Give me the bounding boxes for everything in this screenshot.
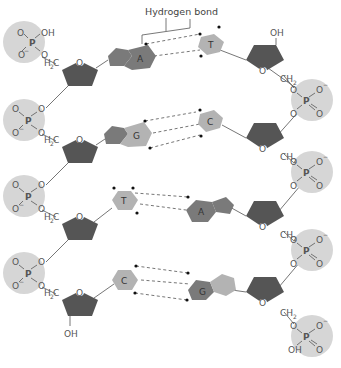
svg-text:P: P (303, 168, 310, 178)
left-phosphate-2: O O P O − O (3, 99, 45, 141)
svg-text:OH: OH (270, 28, 284, 38)
svg-text:2: 2 (293, 79, 297, 86)
svg-text:O: O (76, 58, 83, 68)
svg-text:CH: CH (280, 308, 293, 318)
svg-text:2: 2 (293, 157, 297, 164)
base-adenine-3: A (186, 197, 234, 222)
svg-text:O: O (76, 135, 83, 145)
base-pair-3: T A (112, 186, 234, 222)
svg-text:C: C (53, 212, 59, 222)
left-sugar-2: O H2C (44, 135, 98, 163)
svg-text:P: P (303, 246, 310, 256)
svg-text:P: P (29, 38, 36, 48)
svg-text:O: O (290, 321, 297, 331)
svg-text:T: T (120, 196, 127, 206)
svg-text:C: C (53, 288, 59, 298)
svg-text:C: C (53, 58, 59, 68)
left-phosphate-1: O OH P O − O (3, 21, 55, 63)
base-guanine-2: G (104, 122, 152, 147)
svg-text:P: P (303, 332, 310, 342)
svg-text:P: P (303, 96, 310, 106)
svg-text:−: − (323, 317, 328, 324)
svg-text:O: O (259, 66, 266, 76)
base-thymine-1: T (198, 34, 224, 55)
svg-text:CH: CH (280, 74, 293, 84)
svg-text:O: O (316, 181, 323, 191)
right-sugar-4: O CH2 (246, 277, 297, 320)
svg-text:O: O (76, 288, 83, 298)
svg-text:OH: OH (288, 345, 302, 355)
svg-text:O: O (290, 259, 297, 269)
svg-text:O: O (38, 257, 45, 267)
left-phosphate-3: O O P O − O (3, 175, 45, 217)
svg-text:O: O (259, 298, 266, 308)
glycosidic-bonds (94, 50, 246, 298)
base-thymine-3: T (112, 191, 138, 210)
svg-text:P: P (25, 192, 32, 202)
svg-text:C: C (121, 276, 127, 286)
svg-text:CH: CH (280, 152, 293, 162)
svg-text:T: T (207, 40, 214, 50)
right-phosphate-4: O O − P OH O (288, 315, 333, 357)
svg-text:CH: CH (280, 230, 293, 240)
svg-text:OH: OH (41, 28, 55, 38)
left-sugar-3: O H2C (44, 212, 98, 240)
left-backbone (42, 57, 72, 294)
svg-text:O: O (38, 180, 45, 190)
svg-text:O: O (17, 28, 24, 38)
svg-text:O: O (316, 109, 323, 119)
svg-text:2: 2 (293, 313, 297, 320)
svg-text:O: O (76, 212, 83, 222)
right-sugar-2: O CH2 (246, 123, 297, 164)
svg-text:O: O (290, 85, 297, 95)
svg-text:O: O (316, 259, 323, 269)
hydrogen-bond-label: Hydrogen bond (145, 6, 218, 17)
dna-double-strand-diagram: Hydrogen bond (0, 0, 341, 368)
base-guanine-4: G (188, 274, 236, 300)
right-sugar-1: O OH CH2 (246, 28, 297, 86)
left-phosphate-4: O O P O − O (3, 252, 45, 294)
svg-text:O: O (259, 222, 266, 232)
svg-text:G: G (133, 131, 140, 141)
base-pair-1: A T (108, 25, 224, 70)
svg-text:OH: OH (64, 329, 78, 339)
svg-text:C: C (207, 117, 213, 127)
svg-text:−: − (323, 153, 328, 160)
base-adenine-1: A (108, 45, 156, 70)
right-sugar-3: O CH2 (246, 201, 297, 242)
svg-text:C: C (53, 135, 59, 145)
svg-text:A: A (198, 207, 205, 217)
svg-text:O: O (259, 144, 266, 154)
svg-text:−: − (323, 231, 328, 238)
svg-text:P: P (25, 116, 32, 126)
svg-text:O: O (12, 180, 19, 190)
svg-text:G: G (199, 287, 206, 297)
svg-text:−: − (323, 81, 328, 88)
base-cytosine-4: C (112, 270, 138, 290)
base-cytosine-2: C (198, 110, 223, 132)
svg-text:O: O (290, 109, 297, 119)
svg-text:O: O (12, 257, 19, 267)
left-sugar-4: O H2C OH (44, 288, 98, 339)
svg-text:O: O (38, 104, 45, 114)
svg-text:2: 2 (293, 235, 297, 242)
svg-text:A: A (137, 54, 144, 64)
svg-text:O: O (290, 181, 297, 191)
hydrogen-bonds (135, 34, 200, 300)
svg-text:O: O (12, 104, 19, 114)
left-sugar-1: O H2C (44, 58, 98, 86)
base-pair-2: G C (104, 108, 223, 149)
svg-text:O: O (316, 345, 323, 355)
svg-text:P: P (25, 269, 32, 279)
